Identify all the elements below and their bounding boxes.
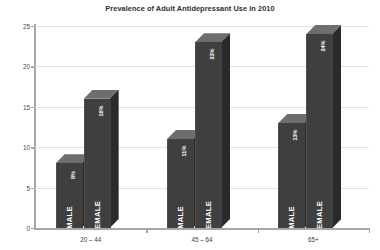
bar-value-label: 13% [292, 129, 298, 140]
bar-series-label: MALE [287, 206, 296, 229]
y-axis-tick-label: 0 [0, 225, 30, 232]
bar-series-label: MALE [64, 206, 73, 229]
bar-value-label: 11% [181, 146, 187, 157]
bar-front-face [306, 34, 333, 228]
x-axis-tick-mark-end [369, 228, 370, 233]
bar-side-face [332, 25, 341, 228]
y-axis-tick-label: 10 [0, 144, 30, 151]
chart-container: Prevalence of Adult Antidepressant Use i… [0, 0, 380, 250]
bar-value-label: 16% [98, 105, 104, 116]
plot-area: MALE8%FEMALE16%MALE11%FEMALE23%MALE13%FE… [35, 26, 369, 228]
chart-title: Prevalence of Adult Antidepressant Use i… [0, 4, 380, 13]
bar-series-label: MALE [176, 206, 185, 229]
y-axis-tick-label: 5 [0, 184, 30, 191]
bar-female-2[interactable]: FEMALE24% [306, 25, 341, 228]
bar-side-face [110, 90, 119, 228]
x-axis-tick-mark [258, 228, 259, 233]
bar-female-0[interactable]: FEMALE16% [84, 90, 119, 228]
y-axis-tick-label: 15 [0, 103, 30, 110]
bar-value-label: 24% [320, 40, 326, 51]
bar-female-1[interactable]: FEMALE23% [195, 33, 230, 228]
bar-value-label: 8% [70, 171, 76, 179]
x-axis-category-label: 20 – 44 [80, 236, 101, 243]
y-axis-tick-label: 25 [0, 23, 30, 30]
x-axis-line [34, 228, 370, 230]
x-axis-category-label: 65+ [308, 236, 319, 243]
y-axis-tick-label: 20 [0, 63, 30, 70]
bar-side-face [221, 33, 230, 228]
x-axis-category-label: 45 – 64 [191, 236, 212, 243]
x-axis-tick-mark [146, 228, 147, 233]
bar-value-label: 23% [209, 49, 215, 60]
